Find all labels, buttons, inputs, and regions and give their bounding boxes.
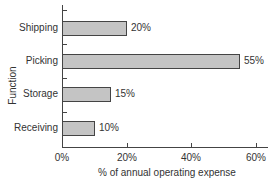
y-tick [62,10,67,11]
x-tick [191,143,192,147]
y-tick [62,112,67,113]
x-tick-label: 0% [47,152,77,163]
y-tick [62,78,67,79]
x-tick-label: 60% [241,152,271,163]
bar-shipping [62,21,127,36]
category-label-shipping: Shipping [2,22,58,33]
x-tick [256,143,257,147]
y-tick [62,44,67,45]
x-axis-label: % of annual operating expense [98,167,236,178]
category-label-receiving: Receiving [2,122,58,133]
value-label-storage: 15% [115,88,135,99]
x-tick [127,143,128,147]
bar-storage [62,87,111,102]
value-label-shipping: 20% [131,22,151,33]
x-tick-label: 20% [112,152,142,163]
y-axis-label: Function [7,66,18,106]
value-label-picking: 55% [244,55,264,66]
category-label-picking: Picking [2,55,58,66]
x-tick-label: 40% [176,152,206,163]
category-label-storage: Storage [2,88,58,99]
bar-picking [62,54,240,69]
value-label-receiving: 10% [99,122,119,133]
x-axis-line [62,147,268,148]
bar-receiving [62,121,95,136]
